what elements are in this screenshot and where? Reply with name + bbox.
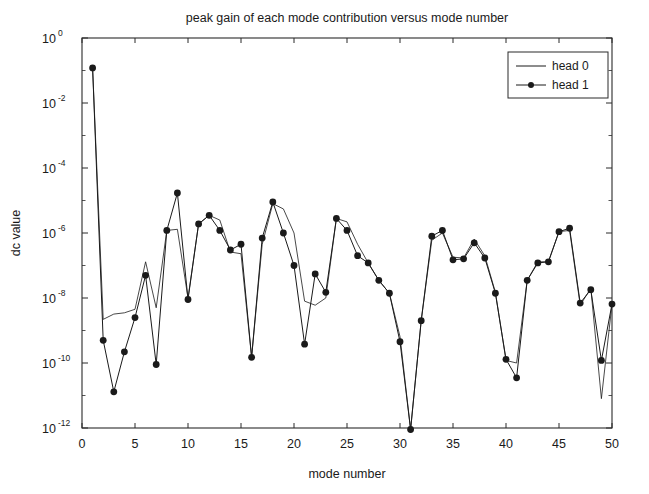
data-point	[450, 256, 457, 263]
legend-label-head0: head 0	[552, 59, 589, 73]
data-point	[238, 241, 245, 248]
data-point	[534, 260, 541, 267]
x-tick-label: 50	[605, 437, 619, 451]
data-point	[397, 338, 404, 345]
x-tick-label: 20	[287, 437, 301, 451]
y-tick-label-exponent: -10	[58, 353, 71, 363]
x-tick-label: 30	[393, 437, 407, 451]
data-point	[566, 225, 573, 232]
data-point	[248, 354, 255, 361]
y-tick-label-exponent: 0	[58, 28, 63, 38]
data-point	[471, 239, 478, 246]
data-point	[301, 341, 308, 348]
data-point	[322, 289, 329, 296]
data-point	[545, 258, 552, 265]
data-point	[174, 190, 181, 197]
data-point	[280, 230, 287, 237]
y-tick-label-exponent: -6	[58, 223, 66, 233]
x-tick-label: 15	[234, 437, 248, 451]
y-axis-label: dc value	[9, 210, 23, 257]
x-tick-label: 25	[340, 437, 354, 451]
data-point	[163, 227, 170, 234]
data-point	[365, 260, 372, 267]
y-tick-label-mantissa: 10	[42, 227, 56, 241]
x-tick-label: 5	[132, 437, 139, 451]
y-tick-label-mantissa: 10	[42, 357, 56, 371]
data-point	[227, 247, 234, 254]
y-tick-label-exponent: -8	[58, 288, 66, 298]
data-point	[110, 388, 117, 395]
data-point	[142, 272, 149, 279]
y-tick-label-mantissa: 10	[42, 162, 56, 176]
x-tick-label: 10	[181, 437, 195, 451]
data-point	[587, 286, 594, 293]
x-tick-label: 40	[499, 437, 513, 451]
legend-dot-icon	[528, 82, 534, 88]
data-point	[333, 215, 340, 222]
data-point	[503, 356, 510, 363]
x-axis-label: mode number	[308, 467, 385, 481]
legend-label-head1: head 1	[552, 78, 589, 92]
data-point	[206, 212, 213, 219]
y-tick-label-exponent: -4	[58, 158, 66, 168]
data-point	[418, 317, 425, 324]
data-point	[121, 348, 128, 355]
data-point	[89, 65, 96, 72]
data-point	[513, 374, 520, 381]
data-point	[577, 300, 584, 307]
data-point	[386, 290, 393, 297]
data-point	[195, 221, 202, 228]
y-tick-label-exponent: -12	[58, 418, 71, 428]
x-tick-label: 35	[446, 437, 460, 451]
data-point	[481, 255, 488, 262]
y-tick-label-mantissa: 10	[42, 97, 56, 111]
y-tick-label-mantissa: 10	[42, 32, 56, 46]
data-point	[312, 271, 319, 278]
data-point	[259, 235, 266, 242]
data-point	[291, 262, 298, 269]
data-point	[609, 301, 616, 308]
x-tick-label: 0	[79, 437, 86, 451]
x-tick-label: 45	[552, 437, 566, 451]
data-point	[428, 233, 435, 240]
data-point	[556, 228, 563, 235]
data-point	[216, 227, 223, 234]
data-point	[344, 227, 351, 234]
data-point	[524, 277, 531, 284]
data-point	[375, 277, 382, 284]
data-point	[492, 290, 499, 297]
chart-canvas: peak gain of each mode contribution vers…	[0, 0, 649, 494]
y-tick-label-mantissa: 10	[42, 422, 56, 436]
data-point	[185, 296, 192, 303]
data-point	[354, 252, 361, 259]
data-point	[598, 357, 605, 364]
data-point	[132, 314, 139, 321]
y-tick-label-mantissa: 10	[42, 292, 56, 306]
data-point	[460, 255, 467, 262]
data-point	[439, 227, 446, 234]
legend[interactable]: head 0 head 1	[508, 52, 608, 98]
data-point	[407, 426, 414, 433]
data-point	[153, 361, 160, 368]
figure-container: peak gain of each mode contribution vers…	[0, 0, 649, 494]
chart-title: peak gain of each mode contribution vers…	[186, 11, 508, 25]
data-point	[269, 199, 276, 206]
y-tick-label-exponent: -2	[58, 93, 66, 103]
data-point	[100, 337, 107, 344]
